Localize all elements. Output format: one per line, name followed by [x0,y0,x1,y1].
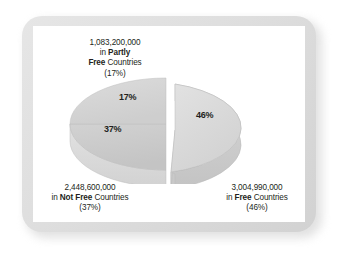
callout-partly-free-bold2: Free [88,58,105,67]
callout-partly-free-percent: (17%) [48,69,182,79]
callout-partly-free: 1,083,200,000 in Partly Free Countries (… [48,38,182,79]
callout-free-value: 3,004,990,000 [182,183,332,193]
callout-not-free-percent: (37%) [14,203,166,213]
callout-not-free-prefix: in [51,193,59,202]
callout-partly-free-line3: Free Countries [48,58,182,68]
slice-label-free: 46% [196,110,213,120]
callout-free-percent: (46%) [182,203,332,213]
callout-partly-free-value: 1,083,200,000 [48,38,182,48]
callout-partly-free-bold1: Partly [108,48,130,57]
callout-free-bold: Free [235,193,252,202]
slice-label-not-free: 37% [104,124,121,134]
callout-partly-free-prefix: in [100,48,108,57]
callout-not-free-value: 2,448,600,000 [14,183,166,193]
pie-chart-figure: 17% 37% 46% 1,083,200,000 in Partly Free… [0,0,339,257]
slice-partly-free-top [70,78,166,124]
callout-partly-free-line2: in Partly [48,48,182,58]
callout-not-free-line2: in Not Free Countries [14,193,166,203]
callout-not-free: 2,448,600,000 in Not Free Countries (37%… [14,183,166,214]
callout-free-line2: in Free Countries [182,193,332,203]
callout-free-suffix: Countries [251,193,287,202]
callout-free: 3,004,990,000 in Free Countries (46%) [182,183,332,214]
callout-not-free-bold: Not Free [60,193,92,202]
callout-free-prefix: in [226,193,234,202]
callout-not-free-suffix: Countries [92,193,128,202]
pie-chart: 17% 37% 46% [66,72,274,184]
slice-label-partly-free: 17% [119,92,136,102]
slice-free [171,84,241,184]
callout-partly-free-suffix: Countries [105,58,141,67]
